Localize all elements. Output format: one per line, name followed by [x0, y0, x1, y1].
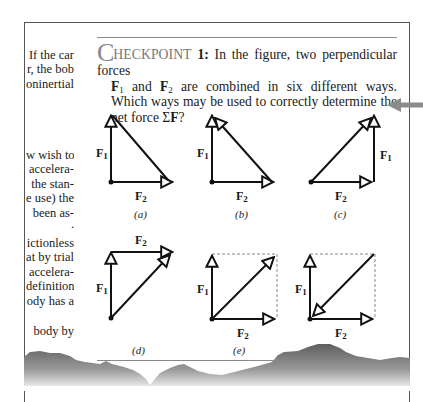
- f1-label: F1: [295, 282, 307, 297]
- f2-label: F2: [335, 326, 347, 341]
